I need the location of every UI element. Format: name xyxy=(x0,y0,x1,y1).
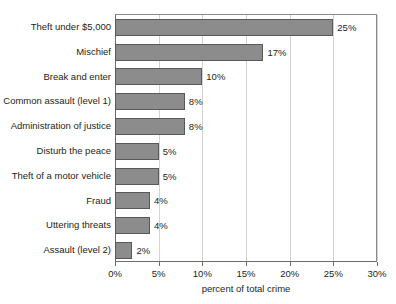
x-tick-label: 15% xyxy=(226,267,266,280)
x-tick-mark xyxy=(290,262,291,266)
bar xyxy=(115,44,263,61)
x-tick-label: 0% xyxy=(95,267,135,280)
bar xyxy=(115,19,333,36)
bar-row: 5% xyxy=(115,139,376,164)
category-label: Mischief xyxy=(0,45,111,58)
bar-value-label: 8% xyxy=(189,95,203,108)
bar xyxy=(115,68,202,85)
x-tick-mark xyxy=(159,262,160,266)
bar-value-label: 10% xyxy=(206,70,225,83)
bar-value-label: 5% xyxy=(163,145,177,158)
bar-row: 8% xyxy=(115,89,376,114)
x-axis-title: percent of total crime xyxy=(115,283,377,294)
bar-row: 25% xyxy=(115,15,376,40)
category-label: Uttering threats xyxy=(0,218,111,231)
bar-value-label: 8% xyxy=(189,120,203,133)
category-label: Theft under $5,000 xyxy=(0,20,111,33)
bar-row: 10% xyxy=(115,65,376,90)
x-tick-mark xyxy=(202,262,203,266)
bar-value-label: 5% xyxy=(163,170,177,183)
gridline-30 xyxy=(377,15,378,261)
x-tick-label: 25% xyxy=(313,267,353,280)
bar xyxy=(115,118,185,135)
category-label: Fraud xyxy=(0,194,111,207)
x-tick-mark xyxy=(333,262,334,266)
category-label: Common assault (level 1) xyxy=(0,94,111,107)
plot-area: 25%17%10%8%8%5%5%4%4%2% xyxy=(115,14,377,262)
x-tick-mark xyxy=(115,262,116,266)
x-tick-mark xyxy=(377,262,378,266)
bar-value-label: 17% xyxy=(267,46,286,59)
bar-value-label: 4% xyxy=(154,219,168,232)
bar-value-label: 25% xyxy=(337,21,356,34)
bar xyxy=(115,143,159,160)
x-tick-label: 20% xyxy=(270,267,310,280)
bar-row: 8% xyxy=(115,114,376,139)
bar-row: 2% xyxy=(115,238,376,263)
x-tick-label: 5% xyxy=(139,267,179,280)
bar xyxy=(115,242,132,259)
category-label: Administration of justice xyxy=(0,119,111,132)
bar-row: 17% xyxy=(115,40,376,65)
category-label: Theft of a motor vehicle xyxy=(0,169,111,182)
bar xyxy=(115,217,150,234)
category-label: Disturb the peace xyxy=(0,144,111,157)
x-tick-mark xyxy=(246,262,247,266)
bar-row: 5% xyxy=(115,164,376,189)
x-tick-label: 10% xyxy=(182,267,222,280)
bar-row: 4% xyxy=(115,213,376,238)
bar-chart: 25%17%10%8%8%5%5%4%4%2% Theft under $5,0… xyxy=(0,0,396,304)
category-label: Assault (level 2) xyxy=(0,243,111,256)
bar-value-label: 4% xyxy=(154,194,168,207)
bar xyxy=(115,168,159,185)
bar xyxy=(115,192,150,209)
category-label: Break and enter xyxy=(0,70,111,83)
bar-row: 4% xyxy=(115,189,376,214)
bar-value-label: 2% xyxy=(136,244,150,257)
bar xyxy=(115,93,185,110)
x-tick-label: 30% xyxy=(357,267,396,280)
chart-title xyxy=(118,0,318,4)
